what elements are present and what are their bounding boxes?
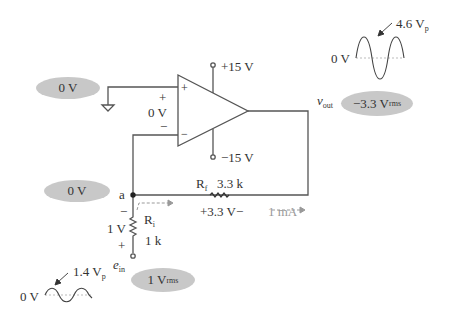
opamp-diagram: + − +15 V −15 V + 0 V − a Rf 3.3 k +3.3 …: [0, 0, 455, 316]
ri-voltage-drop: 1 V: [107, 222, 126, 235]
input-rms-badge: 1 Vrms: [131, 268, 195, 292]
rf-voltage-drop: +3.3 V−: [200, 205, 243, 218]
ground-symbol: [102, 105, 114, 111]
ri-plus-sign: +: [118, 239, 125, 252]
node-a-label: a: [119, 188, 125, 201]
noninv-input-voltage-badge: 0 V: [36, 77, 100, 99]
rf-label: Rf: [196, 177, 207, 193]
opamp-minus-sign: −: [181, 128, 188, 140]
supply-negative-label: −15 V: [221, 151, 254, 164]
input-wave-zero-label: 0 V: [20, 290, 39, 303]
ri-value: 1 k: [145, 234, 161, 247]
vout-label: vout: [317, 94, 333, 110]
diff-minus-sign: −: [160, 120, 167, 133]
diff-voltage-label: 0 V: [148, 106, 167, 119]
ri-label: Ri: [144, 213, 155, 229]
output-rms-badge: −3.3 Vrms: [341, 91, 413, 116]
node-a-dot: [130, 192, 135, 197]
diff-plus-sign: +: [159, 91, 166, 104]
node-a-voltage-badge: 0 V: [44, 180, 110, 202]
ein-label: ein: [113, 258, 125, 274]
output-wave-peak-label: 4.6 Vp: [396, 17, 429, 33]
output-wave-zero-label: 0 V: [331, 52, 350, 65]
rf-value: 3.3 k: [217, 177, 243, 190]
supply-positive-label: +15 V: [221, 60, 254, 73]
current-label: 1 mA: [268, 205, 297, 218]
ri-minus-sign: −: [120, 205, 127, 218]
opamp-plus-sign: +: [181, 82, 188, 94]
input-wave-peak-label: 1.4 Vp: [73, 265, 106, 281]
